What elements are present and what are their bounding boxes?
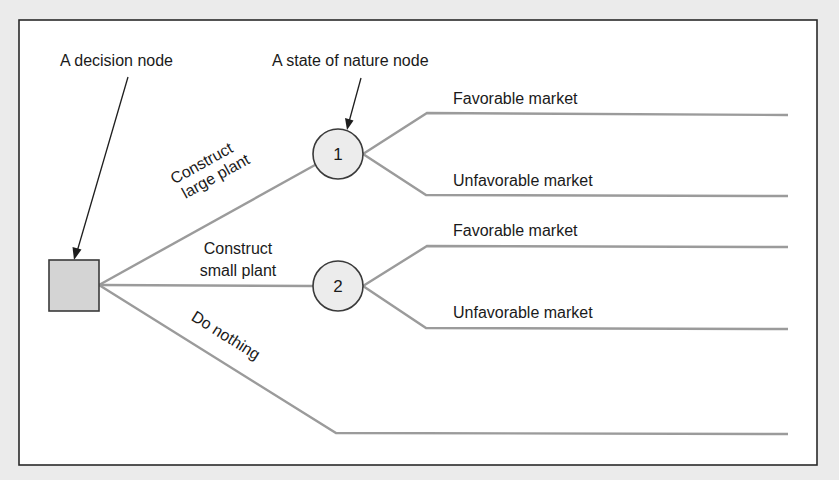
- chance-node-1: 1: [313, 129, 363, 179]
- outcome-label-node1-unfavorable: Unfavorable market: [453, 172, 593, 189]
- branch-label-line2: small plant: [200, 262, 277, 279]
- outcome-label-node1-favorable: Favorable market: [453, 90, 578, 107]
- annotation-state-of-nature-node: A state of nature node: [272, 52, 429, 69]
- chance-node-number: 1: [333, 145, 342, 164]
- outcome-label-node2-unfavorable: Unfavorable market: [453, 304, 593, 321]
- decision-node-square: [49, 260, 99, 311]
- outcome-label-node2-favorable: Favorable market: [453, 222, 578, 239]
- alternative-branch-small-plant: [99, 285, 313, 286]
- chance-node-2: 2: [313, 261, 363, 311]
- diagram-frame: [19, 20, 817, 465]
- chance-node-number: 2: [333, 277, 342, 296]
- decision-tree-diagram: A decision node A state of nature node: [0, 0, 839, 480]
- annotation-decision-node: A decision node: [60, 52, 173, 69]
- diagram-canvas: A decision node A state of nature node: [0, 0, 839, 480]
- branch-label-line1: Construct: [204, 240, 273, 257]
